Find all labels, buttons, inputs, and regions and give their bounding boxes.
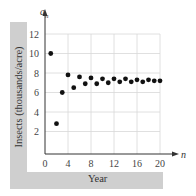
data-point: [89, 75, 94, 80]
scatter-plot: 04812162024681012 an n: [0, 0, 196, 196]
data-point: [152, 78, 157, 83]
y-tick-label: 2: [34, 126, 39, 137]
x-tick-label: 8: [89, 158, 94, 169]
x-tick-label: 16: [132, 158, 142, 169]
data-point: [54, 121, 59, 126]
axes: [43, 9, 180, 157]
data-point: [158, 78, 163, 83]
data-point: [129, 79, 134, 84]
data-point: [140, 79, 145, 84]
data-point: [112, 76, 117, 81]
y-tick-label: 8: [34, 68, 39, 79]
data-points: [48, 51, 162, 126]
tick-labels: 04812162024681012: [29, 29, 165, 170]
data-point: [135, 77, 140, 82]
y-tick-label: 6: [34, 87, 39, 98]
data-point: [71, 85, 76, 90]
data-point: [83, 81, 88, 86]
x-tick-label: 4: [66, 158, 71, 169]
y-tick-label: 10: [29, 48, 39, 59]
data-point: [106, 80, 111, 85]
data-point: [94, 81, 99, 86]
y-tick-label: 4: [34, 107, 39, 118]
x-tick-label: 20: [155, 158, 165, 169]
y-axis-symbol: an: [40, 6, 49, 20]
x-axis-symbol: n: [181, 149, 186, 160]
x-tick-label: 0: [43, 158, 48, 169]
x-tick-label: 12: [109, 158, 119, 169]
y-tick-label: 12: [29, 29, 39, 40]
data-point: [77, 75, 82, 80]
data-point: [123, 76, 128, 81]
data-point: [66, 73, 71, 78]
data-point: [117, 79, 122, 84]
data-point: [60, 90, 65, 95]
data-point: [48, 51, 53, 56]
data-point: [146, 77, 151, 82]
data-point: [100, 76, 105, 81]
